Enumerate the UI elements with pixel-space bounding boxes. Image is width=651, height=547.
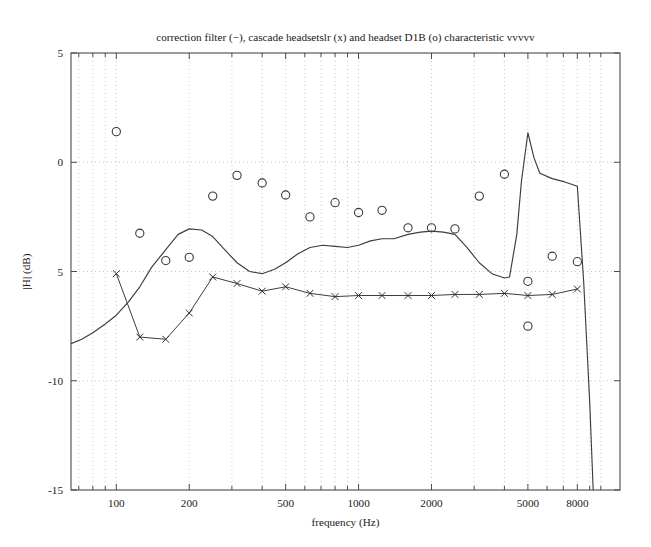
marker-circle <box>162 256 170 264</box>
xtick-label: 8000 <box>566 497 589 509</box>
marker-circle <box>378 206 386 214</box>
marker-circle <box>524 322 532 330</box>
marker-circle <box>136 229 144 237</box>
ytick-label: -10 <box>48 375 63 387</box>
series-correction-filter <box>71 133 593 490</box>
marker-circle <box>306 213 314 221</box>
chart-title: correction filter (−), cascade headsetsl… <box>156 31 535 44</box>
marker-circle <box>548 252 556 260</box>
ytick-label: -15 <box>48 484 63 496</box>
series-line <box>71 133 593 490</box>
series-line <box>116 274 577 340</box>
marker-circle <box>112 128 120 136</box>
plot-frame <box>71 53 620 490</box>
marker-circle <box>233 171 241 179</box>
xtick-label: 2000 <box>420 497 443 509</box>
xtick-label: 100 <box>108 497 125 509</box>
tick-labels: 1002005001000200050008000505-10-15 <box>48 47 589 509</box>
mask-right <box>621 0 651 547</box>
gridlines <box>71 53 620 490</box>
axis-ticks <box>71 53 620 490</box>
marker-circle <box>451 225 459 233</box>
ytick-label: 5 <box>57 47 63 59</box>
ytick-label: 5 <box>57 266 63 278</box>
series-cascade-headsetslr <box>113 270 581 342</box>
marker-circle <box>404 224 412 232</box>
xtick-label: 500 <box>277 497 294 509</box>
mask-top <box>0 0 651 53</box>
y-axis-label: |H| (dB) <box>20 253 33 289</box>
xtick-label: 5000 <box>517 497 540 509</box>
chart-svg: 1002005001000200050008000505-10-15freque… <box>0 0 651 547</box>
marker-circle <box>209 192 217 200</box>
ytick-label: 0 <box>57 156 63 168</box>
series-headset-d1b <box>112 128 581 331</box>
xtick-label: 200 <box>181 497 198 509</box>
chart-figure: 1002005001000200050008000505-10-15freque… <box>0 0 651 547</box>
plot-mask <box>0 0 651 547</box>
xtick-label: 1000 <box>347 497 370 509</box>
x-axis-label: frequency (Hz) <box>311 516 379 529</box>
marker-circle <box>475 192 483 200</box>
